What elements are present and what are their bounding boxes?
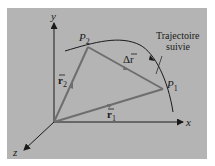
trajectory-diagram: y x z P2 P1 r2 r1 Δr Trajectoire suivie <box>0 0 215 166</box>
z-axis-label: z <box>12 146 18 158</box>
x-axis-label: x <box>185 116 191 128</box>
trajectory-label-line2: suivie <box>166 41 190 52</box>
y-axis-label: y <box>50 10 56 22</box>
trajectory-label-line1: Trajectoire <box>156 30 200 41</box>
vector-delta-r-label: Δr <box>123 53 134 65</box>
